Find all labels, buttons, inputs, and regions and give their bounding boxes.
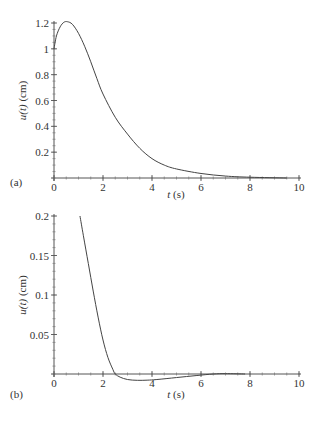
x-tick-label: 8: [247, 181, 253, 193]
y-tick-label: 1: [44, 43, 50, 55]
y-axis: 0.20.40.60.811.2: [35, 17, 57, 181]
figure: 0246810 0.20.40.60.811.2 t (s) u(t) (cm)…: [0, 0, 324, 423]
x-tick-label: 4: [149, 181, 155, 193]
x-tick-label: 0: [51, 181, 57, 193]
panel-label: (a): [10, 176, 23, 189]
y-tick-label: 0.8: [35, 69, 49, 81]
x-tick-label: 6: [198, 377, 204, 389]
x-tick-label: 8: [247, 377, 253, 389]
y-tick-label: 0.05: [30, 329, 50, 341]
data-line: [54, 22, 287, 178]
x-tick-label: 10: [294, 181, 306, 193]
panel-label: (b): [10, 388, 23, 401]
y-axis: 0.050.10.150.2: [30, 210, 57, 377]
y-tick-label: 0.2: [35, 210, 49, 222]
y-tick-label: 0.6: [35, 95, 49, 107]
x-axis-label: t (s): [167, 188, 185, 201]
x-tick-label: 0: [51, 377, 57, 389]
y-tick-label: 1.2: [35, 17, 49, 29]
data-line: [80, 216, 245, 380]
y-tick-label: 0.2: [35, 146, 49, 158]
y-tick-label: 0.4: [35, 120, 49, 132]
chart-panel-b: 0246810 0.050.10.150.2 t (s) u(t) (cm) (…: [10, 210, 305, 401]
x-tick-label: 6: [198, 181, 204, 193]
y-axis-label: u(t) (cm): [16, 275, 29, 315]
x-tick-label: 2: [100, 181, 106, 193]
y-axis-label: u(t) (cm): [16, 80, 29, 120]
x-tick-label: 4: [149, 377, 155, 389]
x-tick-label: 10: [294, 377, 306, 389]
x-tick-label: 2: [100, 377, 106, 389]
y-tick-label: 0.15: [30, 250, 50, 262]
x-axis: 0246810: [51, 371, 305, 389]
chart-panel-a: 0246810 0.20.40.60.811.2 t (s) u(t) (cm)…: [10, 17, 305, 201]
y-tick-label: 0.1: [35, 289, 49, 301]
x-axis-label: t (s): [167, 388, 185, 401]
